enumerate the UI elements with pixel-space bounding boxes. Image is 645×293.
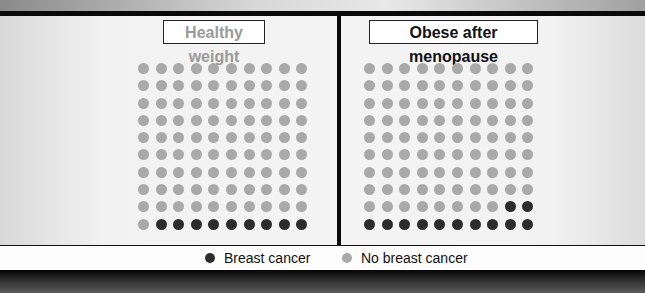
no-breast-cancer-dot xyxy=(244,132,255,143)
no-breast-cancer-dot xyxy=(191,98,202,109)
no-breast-cancer-dot xyxy=(505,184,516,195)
no-breast-cancer-dot xyxy=(452,201,463,212)
dark-dot-icon xyxy=(205,253,215,263)
no-breast-cancer-dot xyxy=(417,167,428,178)
no-breast-cancer-dot xyxy=(434,201,445,212)
no-breast-cancer-dot xyxy=(452,132,463,143)
no-breast-cancer-dot xyxy=(156,63,167,74)
no-breast-cancer-dot xyxy=(487,132,498,143)
breast-cancer-dot xyxy=(364,219,375,230)
dot-grid-healthy-weight xyxy=(138,63,314,236)
legend: Breast cancer No breast cancer xyxy=(0,246,645,270)
no-breast-cancer-dot xyxy=(452,63,463,74)
no-breast-cancer-dot xyxy=(138,201,149,212)
no-breast-cancer-dot xyxy=(505,80,516,91)
no-breast-cancer-dot xyxy=(226,132,237,143)
no-breast-cancer-dot xyxy=(296,184,307,195)
no-breast-cancer-dot xyxy=(279,63,290,74)
no-breast-cancer-dot xyxy=(279,115,290,126)
no-breast-cancer-dot xyxy=(399,132,410,143)
no-breast-cancer-dot xyxy=(505,115,516,126)
no-breast-cancer-dot xyxy=(296,167,307,178)
no-breast-cancer-dot xyxy=(226,63,237,74)
breast-cancer-dot xyxy=(296,219,307,230)
breast-cancer-dot xyxy=(226,219,237,230)
no-breast-cancer-dot xyxy=(261,184,272,195)
no-breast-cancer-dot xyxy=(470,63,481,74)
legend-item-no-breast-cancer: No breast cancer xyxy=(342,249,468,267)
no-breast-cancer-dot xyxy=(505,98,516,109)
no-breast-cancer-dot xyxy=(522,98,533,109)
no-breast-cancer-dot xyxy=(417,201,428,212)
no-breast-cancer-dot xyxy=(364,201,375,212)
no-breast-cancer-dot xyxy=(138,132,149,143)
no-breast-cancer-dot xyxy=(399,98,410,109)
no-breast-cancer-dot xyxy=(364,184,375,195)
no-breast-cancer-dot xyxy=(208,201,219,212)
no-breast-cancer-dot xyxy=(244,63,255,74)
no-breast-cancer-dot xyxy=(191,132,202,143)
no-breast-cancer-dot xyxy=(226,201,237,212)
no-breast-cancer-dot xyxy=(156,201,167,212)
breast-cancer-dot xyxy=(173,219,184,230)
no-breast-cancer-dot xyxy=(487,167,498,178)
no-breast-cancer-dot xyxy=(382,98,393,109)
no-breast-cancer-dot xyxy=(173,201,184,212)
no-breast-cancer-dot xyxy=(417,149,428,160)
breast-cancer-dot xyxy=(505,201,516,212)
no-breast-cancer-dot xyxy=(522,149,533,160)
no-breast-cancer-dot xyxy=(364,132,375,143)
no-breast-cancer-dot xyxy=(208,184,219,195)
no-breast-cancer-dot xyxy=(505,132,516,143)
no-breast-cancer-dot xyxy=(470,167,481,178)
no-breast-cancer-dot xyxy=(417,80,428,91)
no-breast-cancer-dot xyxy=(487,184,498,195)
no-breast-cancer-dot xyxy=(505,149,516,160)
no-breast-cancer-dot xyxy=(399,201,410,212)
breast-cancer-dot xyxy=(487,219,498,230)
no-breast-cancer-dot xyxy=(364,98,375,109)
no-breast-cancer-dot xyxy=(470,201,481,212)
no-breast-cancer-dot xyxy=(399,149,410,160)
no-breast-cancer-dot xyxy=(434,149,445,160)
no-breast-cancer-dot xyxy=(173,149,184,160)
no-breast-cancer-dot xyxy=(505,63,516,74)
no-breast-cancer-dot xyxy=(173,63,184,74)
no-breast-cancer-dot xyxy=(244,115,255,126)
no-breast-cancer-dot xyxy=(261,80,272,91)
no-breast-cancer-dot xyxy=(399,80,410,91)
no-breast-cancer-dot xyxy=(417,184,428,195)
panel-title-obese: Obese after menopause xyxy=(369,20,538,44)
no-breast-cancer-dot xyxy=(244,201,255,212)
no-breast-cancer-dot xyxy=(399,63,410,74)
no-breast-cancer-dot xyxy=(156,98,167,109)
breast-cancer-dot xyxy=(261,219,272,230)
no-breast-cancer-dot xyxy=(364,149,375,160)
no-breast-cancer-dot xyxy=(173,98,184,109)
no-breast-cancer-dot xyxy=(226,80,237,91)
no-breast-cancer-dot xyxy=(296,115,307,126)
legend-item-breast-cancer: Breast cancer xyxy=(205,249,310,267)
no-breast-cancer-dot xyxy=(156,115,167,126)
breast-cancer-dot xyxy=(505,219,516,230)
no-breast-cancer-dot xyxy=(279,184,290,195)
no-breast-cancer-dot xyxy=(487,149,498,160)
no-breast-cancer-dot xyxy=(191,115,202,126)
no-breast-cancer-dot xyxy=(364,167,375,178)
no-breast-cancer-dot xyxy=(522,63,533,74)
no-breast-cancer-dot xyxy=(470,98,481,109)
no-breast-cancer-dot xyxy=(399,184,410,195)
no-breast-cancer-dot xyxy=(522,167,533,178)
no-breast-cancer-dot xyxy=(138,63,149,74)
breast-cancer-dot xyxy=(470,219,481,230)
no-breast-cancer-dot xyxy=(279,167,290,178)
no-breast-cancer-dot xyxy=(382,63,393,74)
no-breast-cancer-dot xyxy=(279,201,290,212)
no-breast-cancer-dot xyxy=(208,149,219,160)
no-breast-cancer-dot xyxy=(522,184,533,195)
no-breast-cancer-dot xyxy=(487,63,498,74)
no-breast-cancer-dot xyxy=(173,80,184,91)
no-breast-cancer-dot xyxy=(173,115,184,126)
no-breast-cancer-dot xyxy=(399,115,410,126)
dot-grid-obese xyxy=(364,63,540,236)
